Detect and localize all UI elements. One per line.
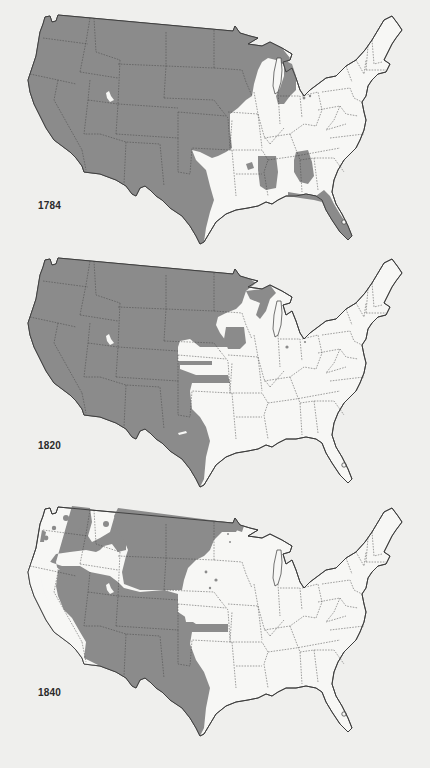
map-1820: 1820 <box>0 243 430 491</box>
us-map-graphic <box>0 243 430 491</box>
map-1840: 1840 <box>0 492 430 740</box>
year-label: 1820 <box>38 440 61 451</box>
map-1784: 1784 <box>0 0 430 248</box>
year-label: 1840 <box>38 687 61 698</box>
us-map-graphic <box>0 0 430 248</box>
us-map-graphic <box>0 492 430 740</box>
year-label: 1784 <box>38 200 61 211</box>
